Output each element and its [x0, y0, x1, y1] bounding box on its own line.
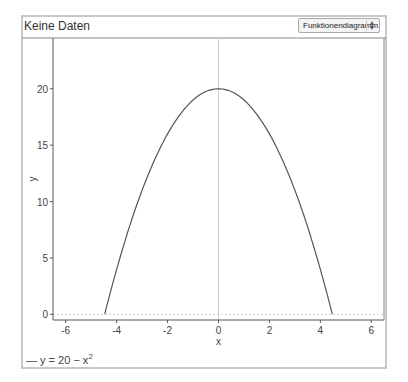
function-plot: -6-4-2024605101520xy [0, 0, 408, 382]
x-tick-label: 4 [318, 325, 324, 336]
x-tick-label: 0 [216, 325, 222, 336]
x-tick-label: -6 [61, 325, 70, 336]
y-tick-label: 20 [37, 84, 49, 95]
x-tick-label: 6 [368, 325, 374, 336]
y-tick-label: 5 [42, 253, 48, 264]
legend: — y = 20 − x2 [26, 352, 93, 366]
y-tick-label: 0 [42, 309, 48, 320]
y-tick-label: 10 [37, 197, 49, 208]
legend-exponent: 2 [88, 352, 92, 361]
x-tick-label: -4 [112, 325, 121, 336]
x-tick-label: -2 [163, 325, 172, 336]
legend-label: y = 20 − x [40, 354, 88, 366]
x-axis-label: x [216, 336, 221, 347]
y-tick-label: 15 [37, 140, 49, 151]
y-axis-label: y [27, 177, 38, 182]
legend-line-icon: — [26, 354, 37, 366]
x-tick-label: 2 [267, 325, 273, 336]
